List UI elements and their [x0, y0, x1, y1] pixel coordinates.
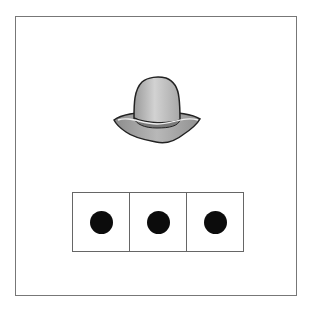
counter-box-2 [130, 193, 187, 251]
hat-icon [112, 74, 202, 150]
counter-box-1 [73, 193, 130, 251]
card-frame [15, 16, 297, 296]
counter-box-3 [187, 193, 243, 251]
dot-icon [204, 211, 227, 234]
dot-icon [147, 211, 170, 234]
dot-icon [90, 211, 113, 234]
ten-frame-counter [72, 192, 244, 252]
